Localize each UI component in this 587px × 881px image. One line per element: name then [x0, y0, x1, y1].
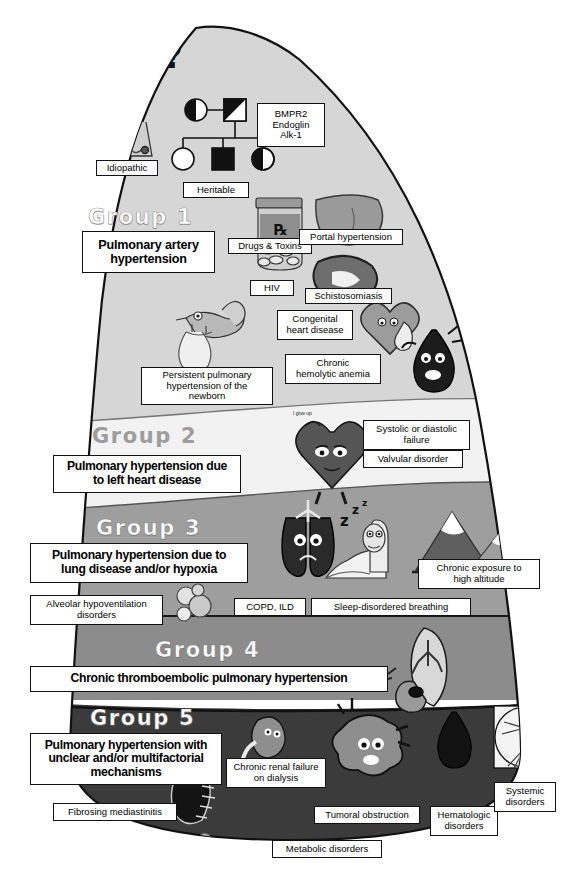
label-idiopathic: Idiopathic — [96, 160, 158, 176]
group1-main-label: Pulmonary artery hypertension — [82, 231, 215, 273]
label-portal-hypertension: Portal hypertension — [299, 229, 403, 245]
group-heading-1: Group 1 — [88, 205, 193, 229]
group3-main-label: Pulmonary hypertension due to lung disea… — [30, 543, 248, 583]
label-valvular-disorder: Valvular disorder — [363, 450, 463, 468]
group-heading-3: Group 3 — [96, 516, 201, 540]
label-systemic-disorders: Systemic disorders — [494, 782, 556, 812]
label-tumoral-obstruction: Tumoral obstruction — [314, 806, 420, 824]
label-alveolar-hypoventilation: Alveolar hypoventilation disorders — [30, 595, 163, 625]
label-sleep-disordered-breathing: Sleep-disordered breathing — [311, 598, 471, 616]
label-congenital-heart-disease: Congenital heart disease — [277, 310, 353, 340]
label-high-altitude: Chronic exposure to high altitude — [418, 559, 540, 589]
label-copd-ild: COPD, ILD — [234, 598, 306, 616]
group-heading-5: Group 5 — [90, 706, 195, 730]
label-genes: BMPR2 Endoglin Alk-1 — [257, 103, 325, 147]
label-pphn: Persistent pulmonary hypertension of the… — [141, 367, 273, 405]
label-heritable: Heritable — [183, 182, 249, 198]
label-hiv: HIV — [250, 280, 294, 296]
label-chronic-renal-failure: Chronic renal failure on dialysis — [226, 758, 326, 788]
label-chronic-hemolytic-anemia: Chronic hemolytic anemia — [285, 354, 381, 384]
group-heading-4: Group 4 — [155, 638, 260, 662]
group5-main-label: Pulmonary hypertension with unclear and/… — [30, 733, 222, 785]
label-metabolic-disorders: Metabolic disorders — [272, 840, 382, 858]
label-systolic-diastolic-failure: Systolic or diastolic failure — [363, 420, 470, 450]
figure-caption — [8, 869, 578, 880]
label-hematologic-disorders: Hematologic disorders — [430, 806, 498, 836]
label-schistosomiasis: Schistosomiasis — [305, 288, 392, 304]
speech-bubble-i-give-up: I give up — [293, 410, 312, 416]
label-fibrosing-mediastinitis: Fibrosing mediastinitis — [53, 803, 177, 821]
figure-stage: ? — [0, 0, 587, 881]
group-heading-2: Group 2 — [92, 424, 197, 448]
group4-main-label: Chronic thromboembolic pulmonary hyperte… — [30, 666, 388, 692]
group2-main-label: Pulmonary hypertension due to left heart… — [53, 455, 241, 493]
label-overlay: Group 1 Pulmonary artery hypertension Id… — [0, 0, 587, 881]
